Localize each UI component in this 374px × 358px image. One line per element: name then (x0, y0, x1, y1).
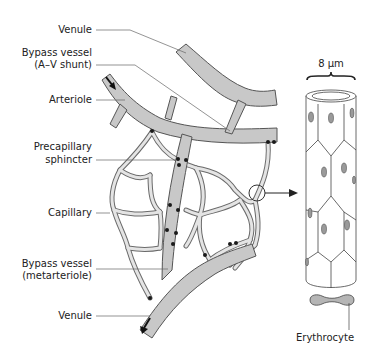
arteriole-branch-left (110, 104, 127, 128)
erythrocyte-shape (310, 295, 354, 305)
label-arteriole: Arteriole (49, 94, 92, 106)
label-venule-bottom: Venule (58, 310, 92, 322)
label-bypass-av-line1: Bypass vessel (22, 47, 92, 59)
venule-top (176, 44, 277, 106)
arteriole (102, 74, 277, 143)
vessels (102, 44, 277, 338)
label-scale: 8 µm (311, 58, 351, 70)
label-bypass-meta-line2: (metarteriole) (22, 270, 92, 282)
venule-bottom (140, 244, 256, 338)
label-bypass-av-line2: (A–V shunt) (34, 59, 92, 71)
label-precapillary-line1: Precapillary (34, 141, 92, 153)
capillary-tube (306, 90, 357, 288)
label-capillary: Capillary (48, 207, 92, 219)
arteriole-branch-up (165, 96, 177, 120)
label-venule-top: Venule (58, 24, 92, 36)
metarteriole (162, 134, 192, 280)
label-erythrocyte: Erythrocyte (296, 332, 354, 344)
scale-brace (307, 72, 355, 80)
arrow-right-icon (265, 189, 298, 197)
label-precapillary-line2: sphincter (45, 154, 92, 166)
label-bypass-meta-line1: Bypass vessel (22, 258, 92, 270)
